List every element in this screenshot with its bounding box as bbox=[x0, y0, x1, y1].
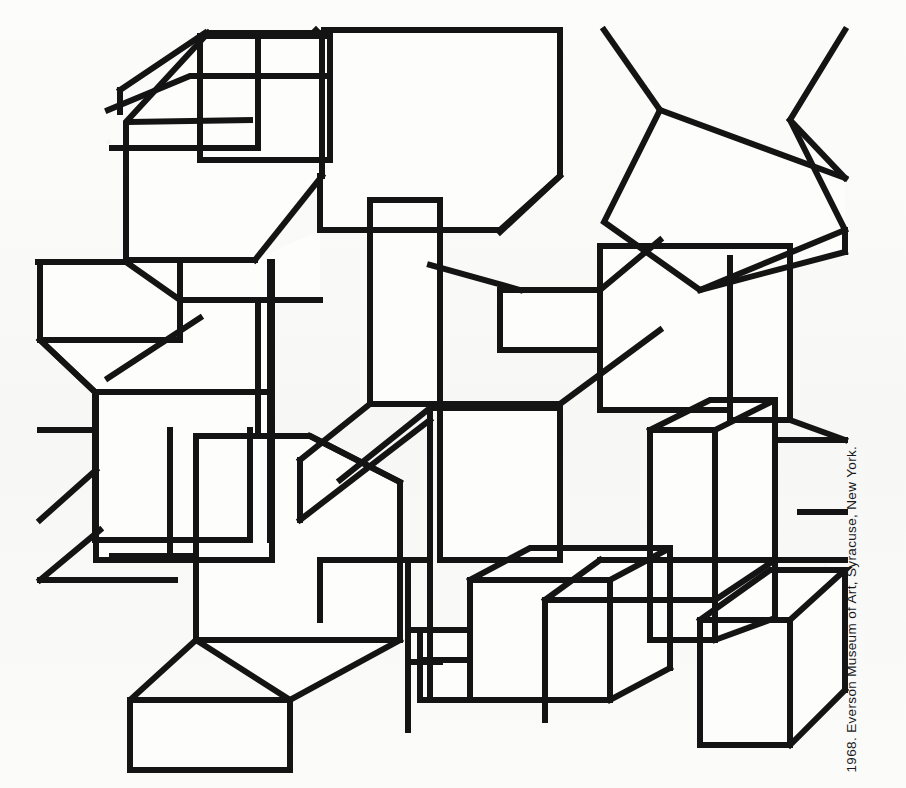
isometric-box-drawing bbox=[0, 0, 906, 788]
box-edge bbox=[208, 33, 322, 34]
plate-caption-text: 1968. Everson Museum of Art, Syracuse, N… bbox=[845, 445, 859, 772]
art-plate-page: 1968. Everson Museum of Art, Syracuse, N… bbox=[0, 0, 906, 788]
box-edge bbox=[130, 120, 250, 122]
box-edge bbox=[40, 470, 96, 520]
box-edge bbox=[40, 530, 100, 580]
box-edge bbox=[430, 265, 520, 290]
plate-caption: 1968. Everson Museum of Art, Syracuse, N… bbox=[858, 380, 888, 772]
box-edge bbox=[604, 30, 660, 110]
